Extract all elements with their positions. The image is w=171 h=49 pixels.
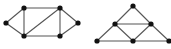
node-F [57, 33, 62, 38]
edge-F-D [60, 23, 78, 36]
right-graph [94, 3, 171, 43]
edge-M1-Mb [115, 24, 133, 41]
edge-T-M2 [133, 6, 151, 24]
node-E [21, 33, 26, 38]
edge-T-M1 [115, 6, 133, 24]
node-T [130, 3, 135, 8]
node-B [21, 5, 26, 10]
node-M1 [112, 21, 117, 26]
node-Mb [130, 38, 135, 43]
graph-diagram [0, 0, 171, 49]
edge-M2-R [151, 24, 169, 41]
edge-A-E [6, 23, 24, 36]
node-C [57, 5, 62, 10]
edge-A-B [6, 8, 24, 23]
node-M2 [148, 21, 153, 26]
edge-M2-Mb [133, 24, 151, 41]
left-graph [3, 5, 80, 38]
edge-E-C [24, 8, 60, 36]
node-A [3, 20, 8, 25]
node-D [75, 20, 80, 25]
edge-M1-L [97, 24, 115, 41]
node-L [94, 38, 99, 43]
edge-C-D [60, 8, 78, 23]
